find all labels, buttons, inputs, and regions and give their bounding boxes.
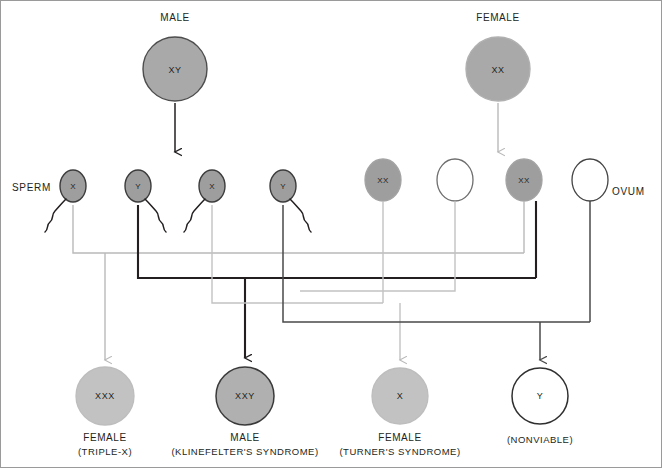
ovum-cell-4 [572, 159, 608, 201]
parent-label-male: MALE [160, 12, 189, 24]
sperm-genotype-2: Y [135, 182, 141, 191]
offspring-caption-4: (NONVIABLE) [507, 434, 573, 446]
offspring-caption-2: (KLINEFELTER'S SYNDROME) [171, 446, 318, 458]
offspring-caption-3: (TURNER'S SYNDROME) [339, 446, 460, 458]
offspring-genotype-4: Y [537, 391, 544, 401]
offspring-caption-1: (TRIPLE-X) [78, 446, 132, 458]
ovum-cell-2 [437, 159, 473, 201]
sperm-genotype-1: X [70, 182, 76, 191]
parent-genotype-male: XY [168, 65, 181, 75]
parent-label-female: FEMALE [476, 12, 519, 24]
row-label-ovum: OVUM [612, 186, 645, 197]
parent-genotype-female: XX [491, 65, 504, 75]
offspring-genotype-1: XXX [95, 391, 115, 401]
ovum-genotype-1: XX [377, 176, 388, 185]
offspring-sex-2: MALE [230, 432, 259, 444]
ovum-genotype-3: XX [518, 176, 529, 185]
offspring-sex-1: FEMALE [83, 432, 126, 444]
sperm-genotype-3: X [209, 182, 215, 191]
offspring-genotype-2: XXY [235, 391, 255, 401]
offspring-genotype-3: X [397, 391, 404, 401]
diagram-canvas: MALE FEMALE XY XX SPERM OVUM X Y X Y XX … [0, 0, 662, 468]
sperm-genotype-4: Y [280, 182, 286, 191]
offspring-sex-3: FEMALE [378, 432, 421, 444]
row-label-sperm: SPERM [12, 182, 51, 193]
